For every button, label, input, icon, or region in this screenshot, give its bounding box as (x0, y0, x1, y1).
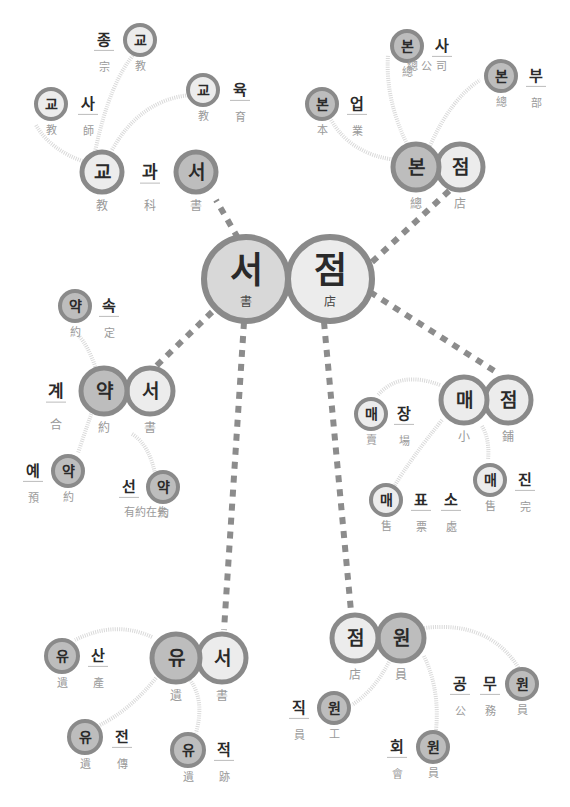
hangul-syllable: 서 (142, 380, 159, 402)
syllable-label: 진完 (515, 471, 535, 514)
syllable-label: 소處 (441, 491, 461, 534)
hangul-syllable: 매 (380, 492, 393, 508)
hangul-syllable: 소 (444, 491, 458, 509)
sub-node: 원員 (418, 732, 448, 780)
hangul-syllable: 점 (347, 627, 364, 649)
sub-node: 교教 (188, 75, 218, 123)
hanja-char: 售 (381, 519, 392, 533)
hangul-syllable: 매 (456, 389, 473, 411)
main-node: 점店 (437, 144, 483, 211)
word-nodes: 서書교教과科교教종宗교教사師교教육育점店본總본總사總 公 司본總부部본本업業서書… (23, 25, 546, 784)
hanja-char: 店 (454, 197, 466, 211)
hanja-char: 票 (416, 521, 427, 534)
arc-connector (132, 434, 156, 478)
sub-node: 유遺 (46, 640, 78, 690)
hanja-char: 員 (517, 704, 528, 717)
center-node: 점店 (288, 237, 372, 321)
hangul-syllable: 원 (328, 700, 341, 716)
hanja-char: 遺 (80, 757, 91, 771)
syllable-label: 전傳 (112, 728, 132, 771)
hangul-syllable: 종 (97, 31, 111, 49)
hangul-syllable: 무 (483, 675, 497, 693)
hanja-char: 員 (395, 668, 407, 682)
hangul-syllable: 속 (102, 297, 116, 315)
sub-word: 본本업業 (307, 89, 367, 138)
sub-word: 약約선有約在先 (119, 472, 178, 520)
sub-word: 원員회會 (387, 732, 448, 781)
hangul-syllable: 서 (214, 647, 231, 669)
dashed-connector (370, 292, 496, 372)
hangul-syllable: 산 (91, 647, 105, 665)
main-node: 서書 (176, 152, 216, 213)
sub-word: 유遺전傳 (69, 721, 132, 771)
hanja-char: 務 (485, 704, 496, 718)
main-node: 유遺 (152, 634, 200, 703)
arc-connector (424, 627, 520, 670)
arc-connector (112, 95, 190, 150)
hanja-char: 科 (144, 199, 156, 213)
main-node: 점店 (332, 615, 378, 682)
dashed-connector (224, 322, 244, 630)
hanja-char: 工 (329, 728, 340, 741)
sub-word: 유遺산產 (46, 640, 108, 690)
main-node: 점鋪 (485, 377, 531, 444)
sub-node: 교教 (36, 89, 66, 137)
word-map-diagram: 서書교教과科교教종宗교教사師교教육育점店본總본總사總 公 司본總부部본本업業서書… (0, 0, 570, 807)
sub-word: 약約속定 (60, 291, 119, 340)
syllable-label: 육育 (230, 81, 250, 124)
sub-node: 약約 (60, 291, 90, 339)
sub-node: 매售 (475, 465, 505, 513)
hanja-char: 完 (520, 500, 531, 514)
syllable-label: 표票 (411, 491, 431, 534)
hangul-syllable: 본 (316, 96, 329, 112)
dashed-connector (150, 312, 212, 372)
hanja-char: 公 (455, 705, 466, 718)
syllable-label: 선 (119, 478, 139, 497)
hangul-syllable: 본 (408, 156, 425, 178)
hanja-char: 處 (446, 520, 457, 534)
sub-node: 매售 (371, 485, 401, 533)
hangul-syllable: 유 (168, 647, 185, 669)
hanja-char: 鋪 (502, 429, 514, 444)
arc-connector (482, 426, 488, 460)
hangul-syllable: 표 (414, 491, 428, 509)
hangul-syllable: 원 (393, 627, 410, 649)
hanja-char: 約 (63, 490, 74, 504)
cluster-jeomwon: 원員점店원員공公무務원工직員원員회會 (289, 615, 537, 781)
hangul-syllable: 교 (45, 96, 58, 112)
dashed-connector (324, 322, 352, 622)
syllable-label: 속定 (99, 297, 119, 340)
hangul-syllable: 과 (142, 162, 158, 182)
hanja-char: 傳 (117, 758, 128, 771)
hangul-syllable: 본 (495, 68, 508, 84)
arc-connector (190, 680, 199, 733)
hanja-char: 教 (46, 124, 57, 137)
sub-node: 약約 (53, 456, 83, 504)
hangul-syllable: 서 (188, 161, 205, 183)
hanja-char: 書 (144, 421, 156, 435)
hangul-syllable: 직 (292, 699, 306, 717)
syllable-label: 사師 (78, 95, 98, 138)
main-node: 매小 (441, 377, 487, 444)
cluster-yakseo: 서書약約계合약約속定약約예預약約선有約在先 (23, 291, 178, 520)
hanja-char: 書 (240, 295, 252, 309)
hangul-syllable: 사 (81, 95, 95, 113)
hangul-syllable: 교 (197, 82, 210, 98)
hangul-syllable: 유 (182, 742, 195, 758)
hanja-char: 預 (28, 492, 39, 505)
hanja-char: 部 (531, 96, 542, 110)
hangul-syllable: 업 (350, 95, 364, 113)
sub-word: 본總부部 (486, 61, 546, 110)
arc-connector (395, 420, 442, 485)
hanja-char: 定 (104, 326, 115, 340)
hangul-syllable: 점 (314, 250, 347, 291)
sub-word: 원員공公무務 (450, 669, 537, 718)
hanja-char: 合 (50, 417, 62, 432)
syllable-label: 업業 (347, 95, 367, 138)
hanja-char: 小 (458, 430, 470, 444)
hangul-syllable: 적 (217, 741, 231, 759)
hangul-syllable: 회 (390, 738, 404, 756)
hanja-char: 業 (352, 125, 363, 138)
syllable-label: 과科 (140, 162, 160, 213)
syllable-label: 부部 (526, 67, 546, 110)
